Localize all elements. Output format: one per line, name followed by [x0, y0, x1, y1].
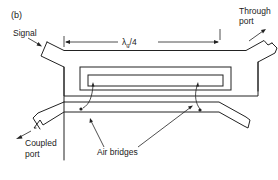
panel-label: (b)	[11, 10, 22, 20]
coupler-diagram: (b) Signal Air bridges	[0, 0, 278, 180]
air-bridges-label: Air bridges	[97, 147, 138, 157]
through-port-arrow-icon	[249, 29, 266, 41]
coupled-line	[33, 102, 250, 129]
coupled-rect-outer	[80, 67, 231, 90]
coupled-rect-inner	[88, 75, 223, 86]
coupled-port-label-2: port	[25, 149, 40, 159]
dimension-marker	[64, 29, 220, 47]
dimension-label: λg/4	[122, 37, 137, 48]
signal-arrow-icon	[28, 38, 42, 47]
coupled-port-label-1: Coupled	[25, 138, 57, 148]
through-line	[41, 41, 277, 161]
signal-label: Signal	[13, 28, 37, 38]
through-port-label-2: port	[239, 16, 254, 26]
through-port-label-1: Through	[239, 6, 271, 16]
